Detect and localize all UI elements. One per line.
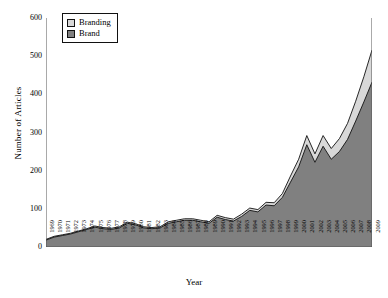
x-tick-label: 1971: [65, 220, 71, 250]
legend-swatch-icon: [67, 30, 75, 38]
x-tick-label: 1994: [252, 220, 258, 250]
x-tick-label: 1993: [244, 220, 250, 250]
x-tick-label: 1997: [277, 220, 283, 250]
x-tick-label: 1972: [73, 220, 79, 250]
x-tick-label: 1986: [187, 220, 193, 250]
x-tick-label: 1976: [106, 220, 112, 250]
x-tick-label: 1987: [195, 220, 201, 250]
y-tick-label: 100: [16, 205, 42, 213]
x-tick-label: 2007: [358, 220, 364, 250]
legend-label: Brand: [79, 29, 100, 38]
legend-swatch-icon: [67, 19, 75, 27]
x-tick-label: 2004: [334, 220, 340, 250]
x-tick-label: 1980: [138, 220, 144, 250]
x-tick-label: 1978: [122, 220, 128, 250]
x-tick-label: 1975: [98, 220, 104, 250]
x-tick-label: 2006: [350, 220, 356, 250]
x-tick-label: 1991: [228, 220, 234, 250]
x-tick-label: 1974: [89, 220, 95, 250]
x-tick-label: 2000: [301, 220, 307, 250]
y-tick-label: 400: [16, 90, 42, 98]
y-tick-label: 500: [16, 52, 42, 60]
stacked-area-plot: [46, 18, 372, 247]
x-tick-label: 1990: [220, 220, 226, 250]
x-tick-label: 1996: [269, 220, 275, 250]
x-tick-label: 1999: [293, 220, 299, 250]
x-tick-label: 1989: [212, 220, 218, 250]
x-tick-label: 2005: [342, 220, 348, 250]
x-axis-tick-labels: 1969197019711972197319741975197619771978…: [46, 250, 372, 280]
plot-area: [46, 18, 372, 247]
x-tick-label: 2003: [326, 220, 332, 250]
x-tick-label: 1985: [179, 220, 185, 250]
legend-item: Brand: [67, 28, 111, 39]
x-tick-label: 2008: [366, 220, 372, 250]
x-tick-label: 1977: [114, 220, 120, 250]
x-tick-label: 1984: [171, 220, 177, 250]
x-tick-label: 2001: [309, 220, 315, 250]
x-tick-label: 1970: [57, 220, 63, 250]
x-tick-label: 1969: [49, 220, 55, 250]
x-tick-label: 1982: [155, 220, 161, 250]
legend-label: Branding: [79, 18, 111, 27]
x-tick-label: 1979: [130, 220, 136, 250]
x-tick-label: 1995: [261, 220, 267, 250]
legend-item: Branding: [67, 17, 111, 28]
chart-legend: BrandingBrand: [62, 13, 118, 43]
x-tick-label: 1983: [163, 220, 169, 250]
y-tick-label: 600: [16, 14, 42, 22]
x-tick-label: 2002: [318, 220, 324, 250]
y-tick-label: 300: [16, 129, 42, 137]
chart-container: Number of Articles Year 0100200300400500…: [0, 0, 388, 298]
x-tick-label: 1992: [236, 220, 242, 250]
x-tick-label: 1981: [146, 220, 152, 250]
y-tick-label: 200: [16, 167, 42, 175]
y-axis-tick-labels: 0100200300400500600: [12, 0, 42, 298]
y-tick-label: 0: [16, 243, 42, 251]
x-tick-label: 2009: [375, 220, 381, 250]
x-tick-label: 1998: [285, 220, 291, 250]
x-tick-label: 1973: [81, 220, 87, 250]
x-tick-label: 1988: [203, 220, 209, 250]
